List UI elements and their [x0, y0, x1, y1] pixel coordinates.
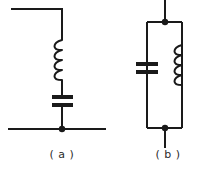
capacitor-a [52, 95, 73, 107]
capacitor-a-plate-bottom [52, 103, 73, 107]
capacitor-b-plate-top [136, 62, 158, 66]
caption-a: ( a ) [34, 148, 90, 161]
circuit-a-group [8, 9, 106, 132]
inductor-b [175, 45, 183, 85]
capacitor-b-plate-bottom [136, 70, 158, 74]
junction-top-b [162, 19, 168, 25]
caption-b: ( b ) [140, 148, 196, 161]
inductor-a [55, 40, 63, 80]
junction-bottom-b [162, 125, 168, 131]
capacitor-a-plate-top [52, 95, 73, 99]
top-lead-a [11, 9, 62, 40]
circuit-b-group [136, 0, 182, 148]
junction-bottom-a [59, 126, 65, 132]
circuit-figure: ( a ) ( b ) [0, 0, 200, 174]
